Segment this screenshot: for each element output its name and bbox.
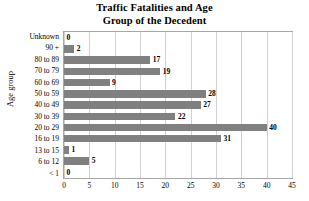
x-axis-tick-label: 20: [162, 182, 170, 190]
y-axis-tick-label: 70 to 79: [14, 65, 61, 76]
bar[interactable]: [64, 56, 150, 64]
x-axis-tick-label: 30: [212, 182, 220, 190]
y-axis-tick-label: 50 to 59: [14, 88, 61, 99]
y-axis-tick-label: 6 to 12: [14, 156, 61, 167]
bar-value-label: 5: [89, 157, 95, 165]
y-axis-tick-label: 40 to 49: [14, 99, 61, 110]
bar[interactable]: [64, 68, 160, 76]
bar[interactable]: [64, 113, 175, 121]
x-axis-tick-label: 45: [288, 182, 296, 190]
bar[interactable]: [64, 45, 74, 53]
x-axis-tick-label: 5: [87, 182, 91, 190]
chart-title: Traffic Fatalities and Age Group of the …: [0, 2, 309, 27]
y-axis-tick-label: Unknown: [14, 31, 61, 42]
bar-row: 5: [64, 156, 292, 167]
bars-layer: 02171992827224031150: [64, 32, 292, 178]
chart-title-line-1: Traffic Fatalities and Age: [0, 2, 309, 15]
y-axis-tick-label: 13 to 15: [14, 145, 61, 156]
bar-value-label: 40: [267, 124, 277, 132]
bar-row: 2: [64, 43, 292, 54]
x-axis-tick-label: 0: [62, 182, 66, 190]
x-axis-tick-label: 35: [238, 182, 246, 190]
chart-title-line-2: Group of the Decedent: [0, 15, 309, 28]
bar-value-label: 31: [221, 135, 231, 143]
bar-row: 40: [64, 122, 292, 133]
gridline: [292, 32, 293, 178]
bar-value-label: 27: [201, 101, 211, 109]
bar-value-label: 19: [160, 68, 170, 76]
x-axis-tick-label: 40: [263, 182, 271, 190]
bar-value-label: 1: [69, 146, 75, 154]
bar[interactable]: [64, 79, 110, 87]
bar[interactable]: [64, 124, 267, 132]
y-axis-tick-label: 90 +: [14, 42, 61, 53]
bar-row: 31: [64, 133, 292, 144]
y-axis-tick-labels: Unknown90 +80 to 8970 to 7960 to 6950 to…: [14, 31, 61, 179]
y-axis-tick-label: 80 to 89: [14, 54, 61, 65]
bar-value-label: 0: [64, 34, 70, 42]
y-axis-tick-label: 20 to 29: [14, 122, 61, 133]
plot-area: 02171992827224031150: [63, 31, 293, 179]
bar-row: 19: [64, 66, 292, 77]
y-axis-tick-label: < 1: [14, 168, 61, 179]
x-axis-tick-label: 25: [187, 182, 195, 190]
x-axis-tick-label: 10: [111, 182, 119, 190]
bar-value-label: 0: [64, 169, 70, 177]
bar[interactable]: [64, 101, 201, 109]
bar-row: 17: [64, 54, 292, 65]
bar-value-label: 22: [175, 113, 185, 121]
bar-value-label: 28: [206, 90, 216, 98]
x-axis-tick-labels: 051015202530354045: [63, 182, 293, 196]
bar-row: 22: [64, 111, 292, 122]
bar-row: 1: [64, 144, 292, 155]
bar-row: 27: [64, 99, 292, 110]
bar[interactable]: [64, 135, 221, 143]
bar-row: 28: [64, 88, 292, 99]
chart-container: Traffic Fatalities and Age Group of the …: [0, 0, 309, 201]
y-axis-tick-label: 16 to 19: [14, 134, 61, 145]
y-axis-tick-label: 30 to 39: [14, 111, 61, 122]
bar-value-label: 2: [74, 45, 80, 53]
bar-row: 9: [64, 77, 292, 88]
bar-row: 0: [64, 32, 292, 43]
x-axis-tick-label: 15: [136, 182, 144, 190]
bar-value-label: 9: [110, 79, 116, 87]
bar-value-label: 17: [150, 56, 160, 64]
bar[interactable]: [64, 90, 206, 98]
bar[interactable]: [64, 157, 89, 165]
y-axis-tick-label: 60 to 69: [14, 77, 61, 88]
bar-row: 0: [64, 167, 292, 178]
